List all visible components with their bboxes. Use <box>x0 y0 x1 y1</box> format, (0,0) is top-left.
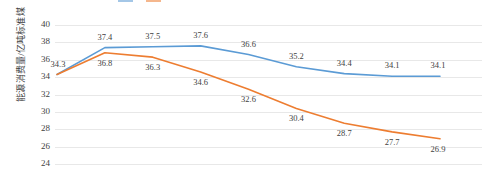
data-label: 28.7 <box>337 129 352 138</box>
legend-swatch <box>146 0 161 2</box>
legend-swatch <box>118 0 133 2</box>
data-label: 34.3 <box>51 60 66 69</box>
data-label: 34.1 <box>385 61 400 70</box>
data-label: 35.2 <box>289 52 304 61</box>
plot-area: 403836343230282624 34.337.437.537.636.63… <box>0 15 482 171</box>
data-label: 36.8 <box>97 59 112 68</box>
data-label: 34.4 <box>337 59 352 68</box>
legend-entry[interactable] <box>146 0 165 2</box>
data-label: 37.5 <box>145 32 160 41</box>
data-label: 37.6 <box>193 31 208 40</box>
data-label: 36.3 <box>145 63 160 72</box>
series-line <box>57 46 440 76</box>
data-label: 30.4 <box>289 114 304 123</box>
data-label: 32.6 <box>241 95 256 104</box>
data-label: 34.6 <box>193 78 208 87</box>
data-label: 27.7 <box>385 138 400 147</box>
data-label: 26.9 <box>431 145 446 154</box>
legend-entries <box>118 0 165 7</box>
data-label: 36.6 <box>241 40 256 49</box>
chart-legend <box>0 0 482 7</box>
line-chart: 能源消费量/亿吨标准煤 403836343230282624 34.337.43… <box>0 0 482 171</box>
data-label: 34.1 <box>431 61 446 70</box>
legend-entry[interactable] <box>118 0 137 2</box>
data-label: 37.4 <box>97 33 112 42</box>
